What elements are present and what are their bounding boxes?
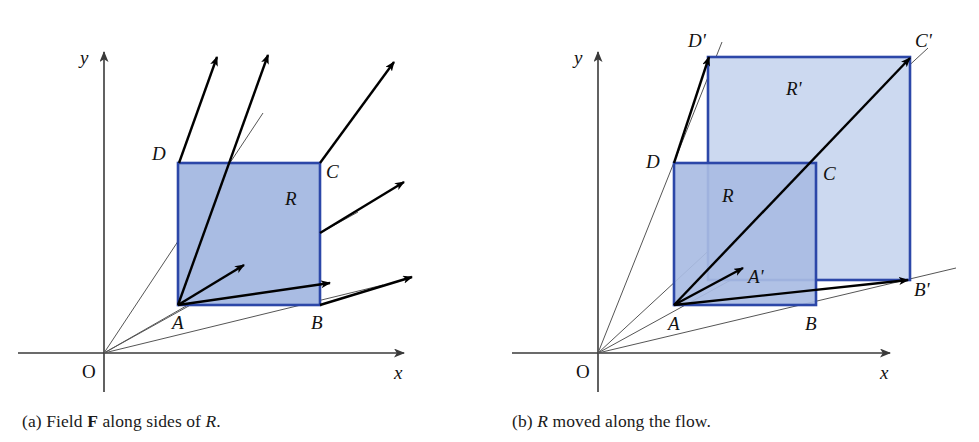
flow-arrow-D-to-Dprime [674,57,709,163]
region-R-rect [178,163,320,305]
caption-a: (a) Field F along sides of R. [22,411,221,432]
caption-b-suffix: moved along the flow. [552,411,710,431]
field-arrow-at-C-right [320,182,404,233]
y-axis-label: y [78,47,89,68]
panel-b: R' R D' C' D C A' B' A [490,0,979,442]
vertex-label-Dprime: D' [687,30,707,51]
field-arrow-at-D [179,57,217,163]
field-arrow-lower-right [320,277,412,305]
region-R-label: R [284,188,297,209]
caption-a-region-symbol: R [206,411,217,431]
x-axis-label: x [393,362,403,383]
x-axis-label: x [879,362,889,383]
vertex-label-A: A [666,313,680,334]
y-axis-label: y [572,47,583,68]
panel-b-diagram: R' R D' C' D C A' B' A [490,0,979,400]
panel-a: R D C A B y x O [0,0,490,442]
field-arrow-at-C [320,62,394,163]
caption-a-prefix: (a) Field [22,411,83,431]
vertex-label-C: C [326,161,339,182]
panel-a-diagram: R D C A B y x O [0,0,490,400]
region-R-a: R [178,163,320,305]
vertex-label-Aprime: A' [746,266,765,287]
caption-b-prefix: (b) [512,411,533,431]
origin-label: O [576,361,590,382]
caption-b: (b) R moved along the flow. [512,411,711,432]
origin-label: O [82,361,96,382]
vertex-label-C: C [823,163,836,184]
vertex-label-B: B [805,313,817,334]
caption-b-region-symbol: R [537,411,548,431]
vertex-label-A: A [170,312,184,333]
figure-root: R D C A B y x O [0,0,979,442]
caption-a-mid: along sides of [102,411,201,431]
vertex-label-D: D [645,151,660,172]
region-R-label: R [721,185,734,206]
vertex-label-B: B [311,312,323,333]
vertex-label-Bprime: B' [914,279,931,300]
vertex-label-D: D [151,143,166,164]
region-Rprime-label: R' [785,78,803,99]
caption-a-suffix: . [216,411,220,431]
vertex-label-Cprime: C' [915,30,933,51]
caption-a-field-symbol: F [87,411,98,431]
